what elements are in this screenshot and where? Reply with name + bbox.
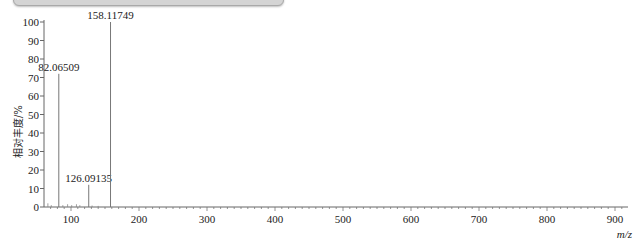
x-tick-label: 300	[199, 213, 216, 225]
y-tick-label: 100	[23, 16, 40, 28]
x-tick-label: 100	[63, 213, 80, 225]
x-tick-label: 600	[403, 213, 420, 225]
mass-spectrum-chart: 0102030405060708090100100200300400500600…	[0, 0, 644, 245]
y-tick-label: 30	[28, 146, 40, 158]
y-tick-label: 40	[28, 127, 40, 139]
y-tick-label: 70	[28, 72, 40, 84]
x-tick-label: 200	[131, 213, 148, 225]
y-tick-label: 50	[28, 109, 40, 121]
y-tick-label: 20	[28, 164, 40, 176]
peaks: 82.06509126.09135158.11749	[38, 9, 134, 207]
x-tick-label: 800	[539, 213, 556, 225]
x-tick-label: 400	[267, 213, 284, 225]
peak-label: 126.09135	[65, 172, 112, 184]
x-tick-label: 700	[471, 213, 488, 225]
y-tick-label: 60	[28, 90, 40, 102]
y-tick-label: 10	[28, 183, 40, 195]
peak-label: 82.06509	[38, 61, 80, 73]
x-axis-label: m/z	[617, 228, 633, 240]
y-tick-label: 90	[28, 35, 40, 47]
x-tick-label: 900	[607, 213, 624, 225]
axes: 0102030405060708090100100200300400500600…	[23, 16, 629, 225]
x-tick-label: 500	[335, 213, 352, 225]
peak-label: 158.11749	[87, 9, 134, 21]
y-axis-label: 相对丰度/%	[12, 105, 24, 158]
y-tick-label: 0	[34, 201, 40, 213]
